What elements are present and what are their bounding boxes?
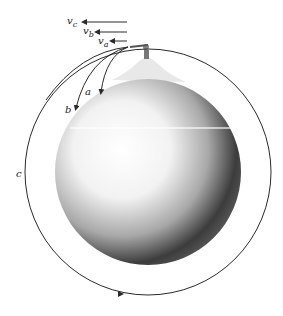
trajectory-label-c: c — [16, 168, 22, 179]
cannon-icon — [130, 44, 149, 59]
trajectory-label-a: a — [85, 86, 91, 97]
velocity-label-c: vc — [67, 15, 78, 29]
velocity-label-b: vb — [83, 25, 94, 39]
mountain — [112, 57, 186, 82]
velocity-label-a: va — [98, 35, 109, 49]
newtons-cannon-diagram: vc vb va a b c — [0, 0, 283, 316]
trajectory-label-b: b — [65, 104, 71, 115]
